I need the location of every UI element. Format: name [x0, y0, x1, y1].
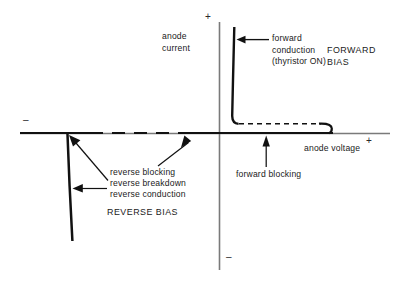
arrowhead-reverse-breakdown [69, 135, 80, 147]
axis-sign-top-plus: + [205, 12, 211, 22]
callout-forward-conduction-line2: conduction [272, 45, 315, 55]
curve-reverse-conduction [67, 132, 72, 241]
callout-reverse-conduction: reverse conduction [110, 189, 186, 200]
region-label-forward-bias: FORWARD BIAS [327, 45, 376, 69]
axis-label-anode-current-line1: anode [162, 31, 187, 41]
curve-breakover-hook [319, 124, 332, 134]
axis-sign-left-minus: – [23, 115, 29, 125]
axis-label-anode-current: anode current [162, 31, 190, 54]
axis-sign-bottom-minus: – [226, 252, 232, 262]
leader-reverse-blocking [158, 143, 189, 167]
axis-label-anode-voltage: anode voltage [304, 143, 360, 154]
region-label-forward-bias-line1: FORWARD [327, 45, 376, 55]
arrowhead-reverse-blocking [181, 136, 191, 148]
diagram-canvas: + – – + anode current anode voltage forw… [0, 0, 398, 283]
curve-forward-conduction [232, 27, 238, 124]
callout-reverse-breakdown: reverse breakdown [110, 178, 186, 189]
region-label-reverse-bias: REVERSE BIAS [107, 207, 178, 218]
leader-reverse-breakdown [76, 143, 108, 181]
thyristor-characteristic-graph [0, 0, 398, 283]
arrowhead-reverse-conduction [73, 184, 83, 193]
arrowhead-forward-blocking [263, 135, 270, 146]
axis-label-anode-current-line2: current [162, 43, 190, 53]
callout-forward-conduction-line3: (thyristor ON) [272, 56, 326, 66]
region-label-forward-bias-line2: BIAS [327, 57, 349, 67]
axis-sign-right-plus: + [366, 136, 372, 146]
callout-forward-conduction-line1: forward [272, 33, 302, 43]
callout-forward-conduction: forward conduction (thyristor ON) [272, 33, 326, 68]
callout-forward-blocking: forward blocking [236, 169, 301, 180]
callout-reverse-blocking: reverse blocking [110, 167, 175, 178]
arrowhead-forward-conduction [237, 36, 246, 44]
